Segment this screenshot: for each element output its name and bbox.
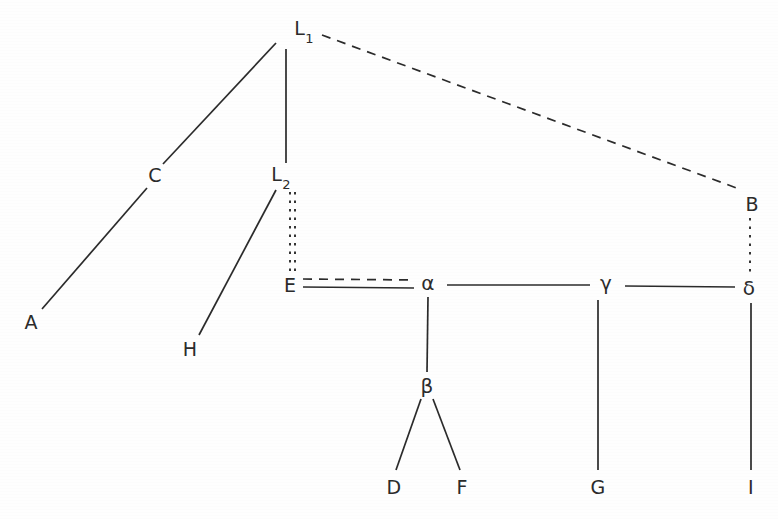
node-text: β [421, 374, 434, 398]
node-label-beta: β [421, 376, 434, 396]
edge-E-to-alpha [303, 279, 414, 280]
node-label-d: D [387, 478, 402, 497]
node-label-f: F [456, 478, 467, 497]
node-text: α [421, 271, 434, 295]
node-text: F [456, 476, 467, 498]
edge-layer [0, 0, 778, 519]
node-text: L [271, 163, 282, 185]
edge-alpha-to-beta [427, 297, 428, 372]
node-label-e: E [284, 276, 296, 295]
edge-beta-to-F [433, 399, 460, 470]
node-text: γ [600, 271, 612, 295]
node-label-c: C [148, 166, 161, 185]
node-label-delta: δ [743, 278, 755, 298]
node-label-l1: L1 [294, 19, 313, 42]
node-label-alpha: α [421, 273, 434, 293]
edge-H-to-L2 [199, 190, 276, 335]
node-text: B [745, 193, 758, 215]
edge-E-to-alpha [303, 287, 414, 288]
node-text: C [148, 164, 161, 186]
edge-C-to-L1 [163, 43, 276, 164]
node-label-h: H [183, 340, 198, 359]
node-text: G [591, 476, 606, 498]
node-label-g: G [591, 478, 606, 497]
node-label-b: B [745, 195, 758, 214]
node-label-a: A [24, 313, 37, 332]
diagram-canvas: L1CL2BEαγδAHβDFGI [0, 0, 778, 519]
node-label-i: I [748, 478, 754, 497]
node-label-l2: L2 [271, 165, 290, 188]
edge-gamma-to-delta [625, 286, 735, 287]
node-text: A [24, 311, 37, 333]
node-text: E [284, 274, 296, 296]
node-text: I [748, 476, 754, 498]
edge-A-to-C [42, 188, 147, 309]
edge-L1-to-B [322, 35, 742, 190]
node-text: δ [743, 276, 755, 300]
node-text: H [183, 338, 198, 360]
node-label-gamma: γ [600, 273, 612, 293]
node-subscript: 2 [282, 176, 290, 191]
edge-beta-to-D [396, 399, 421, 470]
node-text: L [294, 17, 305, 39]
node-subscript: 1 [305, 30, 313, 45]
node-text: D [387, 476, 402, 498]
